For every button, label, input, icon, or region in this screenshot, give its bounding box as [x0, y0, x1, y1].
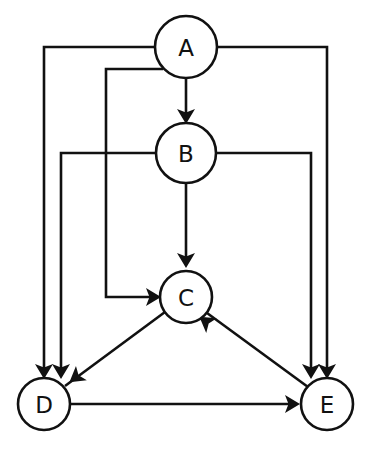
node-e[interactable]: E	[301, 378, 353, 430]
arrowhead-c-to-d	[64, 366, 87, 389]
node-label-d: D	[35, 392, 53, 418]
node-a[interactable]: A	[155, 16, 217, 78]
edge-c-to-d	[65, 312, 165, 386]
graph-svg: ABCDE	[0, 0, 371, 457]
edges-layer	[44, 47, 327, 404]
node-label-c: C	[178, 285, 194, 311]
edge-b-to-e	[216, 153, 311, 370]
node-label-b: B	[178, 141, 194, 167]
arrowhead-glyph	[64, 366, 87, 389]
edge-e-to-c	[207, 313, 308, 387]
edge-a-to-c	[106, 69, 163, 297]
node-label-a: A	[178, 35, 194, 61]
node-label-e: E	[320, 392, 335, 418]
node-c[interactable]: C	[160, 271, 212, 323]
node-d[interactable]: D	[18, 378, 70, 430]
edge-b-to-d	[61, 153, 156, 370]
node-b[interactable]: B	[156, 123, 216, 183]
graph-diagram-canvas: ABCDE	[0, 0, 371, 457]
